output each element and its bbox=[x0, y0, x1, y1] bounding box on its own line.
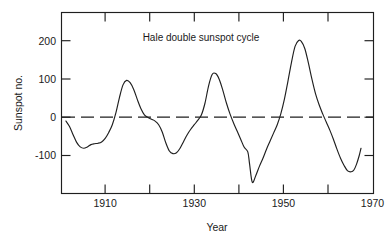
sunspot-cycle-chart: 200 100 0 -100 1910 1930 1950 1970 Year … bbox=[0, 0, 388, 241]
y-tick-label-200: 200 bbox=[38, 35, 56, 47]
y-axis-title: Sunspot no. bbox=[12, 75, 24, 131]
x-tick-label-1930: 1930 bbox=[183, 197, 207, 209]
x-tick-label-1910: 1910 bbox=[93, 197, 117, 209]
x-tick-label-1970: 1970 bbox=[361, 197, 385, 209]
y-tick-label-minus100: -100 bbox=[35, 149, 56, 161]
chart-title-annotation: Hale double sunspot cycle bbox=[143, 32, 260, 43]
x-tick-label-1950: 1950 bbox=[272, 197, 296, 209]
y-tick-label-100: 100 bbox=[38, 73, 56, 85]
x-axis-title: Year bbox=[206, 221, 228, 233]
y-tick-label-0: 0 bbox=[50, 111, 56, 123]
